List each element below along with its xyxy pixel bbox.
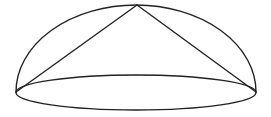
diagram-canvas [0, 0, 271, 117]
hemisphere-cone-diagram [0, 0, 271, 117]
hemisphere-dome-arc [16, 5, 256, 92]
cone-right-slant [137, 5, 256, 92]
base-ellipse [16, 75, 256, 110]
cone-left-slant [16, 5, 137, 92]
